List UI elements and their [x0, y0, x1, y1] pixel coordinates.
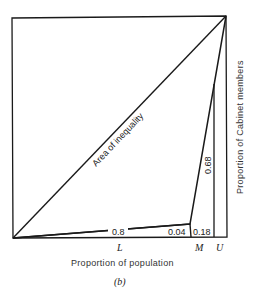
- point-label-u: U: [216, 242, 224, 253]
- point-label-l: L: [116, 242, 123, 253]
- point-label-m: M: [194, 242, 204, 253]
- segment-value-lower: 0.8: [112, 227, 125, 237]
- segment-value-middle: 0.04: [168, 227, 186, 237]
- segment-value-upper-base: 0.18: [193, 227, 211, 237]
- figure-caption: (b): [114, 276, 126, 288]
- diagonal-label: Area of inequality: [90, 111, 145, 169]
- segment-value-upper-rise: 0.68: [203, 156, 213, 174]
- y-axis-label: Proportion of Cabinet members: [235, 60, 245, 194]
- lorenz-diagram: Area of inequality 0.8 0.04 0.18 0.68 L …: [0, 0, 253, 295]
- x-axis-label: Proportion of population: [71, 258, 174, 268]
